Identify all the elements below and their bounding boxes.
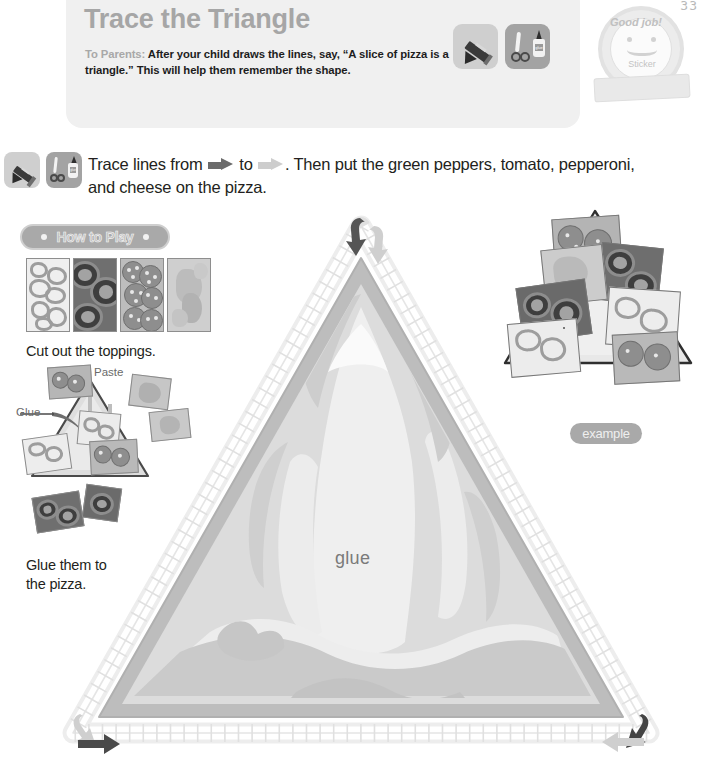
pasted-chip-pepperoni-bottom	[89, 439, 139, 475]
example-chip-peppers-bottomleft	[507, 318, 581, 378]
good-job-ribbon	[593, 74, 690, 103]
pasted-chip-tomato-a	[31, 490, 84, 533]
example-figure: example	[495, 205, 705, 455]
pasted-chip-cheese-right	[149, 408, 192, 442]
sticker-label: Sticker	[611, 59, 673, 69]
crayon-tool-icon	[453, 24, 498, 69]
example-chip-pepperoni-bottomright	[612, 331, 681, 384]
glue-bottle-label: glue	[535, 44, 543, 51]
to-parents-note: To Parents: After your child draws the l…	[85, 46, 455, 79]
instruction-text: Trace lines from to . Then put the green…	[88, 152, 648, 200]
to-parents-label: To Parents:	[85, 48, 145, 60]
glue-bottle-label: glue	[70, 167, 76, 173]
pasted-chip-cheese-top	[128, 374, 172, 411]
dark-arrow-icon	[208, 158, 234, 171]
step-2-caption-line2: the pizza.	[26, 575, 86, 594]
good-job-label: Good job!	[588, 10, 684, 34]
bullet-dot-left	[41, 234, 47, 240]
tomato-card	[73, 258, 117, 332]
cheese-card	[167, 258, 211, 332]
glue-step-diagram: Paste Glue	[16, 368, 196, 508]
worksheet-page: 33 Trace the Triangle To Parents: After …	[0, 0, 712, 775]
pepperoni-card	[120, 258, 164, 332]
example-label: example	[570, 423, 642, 444]
light-arrow-icon	[258, 158, 284, 171]
paste-label: Paste	[94, 366, 123, 378]
page-title: Trace the Triangle	[84, 4, 310, 35]
topping-cards-strip	[26, 258, 211, 332]
apex-start-arrow	[332, 212, 402, 274]
instruction-crayon-icon	[4, 152, 40, 188]
scissors-ring-right	[57, 174, 65, 182]
green-peppers-card	[26, 258, 70, 332]
instruction-scissors-glue-icon: glue	[46, 152, 82, 188]
glue-label: Glue	[16, 406, 40, 418]
step-2-caption-line1: Glue them to	[26, 556, 107, 575]
header-panel: Trace the Triangle To Parents: After you…	[66, 0, 580, 128]
glue-instruction-word: glue	[335, 548, 370, 569]
bottom-left-arrow	[62, 704, 136, 762]
how-to-play-label: How to Play	[56, 229, 133, 245]
instruction-row: glue Trace lines from to . Then put the …	[4, 152, 704, 200]
bottom-right-arrow	[584, 702, 660, 762]
instruction-part-1: Trace lines from	[88, 155, 207, 173]
smiley-mouth	[627, 41, 657, 56]
how-to-play-badge: How to Play	[20, 224, 170, 250]
bullet-dot-right	[143, 234, 149, 240]
example-chip-cheese-bottom	[563, 327, 565, 329]
scissors-blade-shape	[515, 32, 521, 52]
scissors-blade-shape	[53, 157, 58, 173]
pasted-chip-tomato-b	[82, 484, 122, 523]
scissors-ring-right	[520, 52, 530, 62]
step-1-caption: Cut out the toppings.	[26, 342, 156, 361]
header-tool-icons: glue	[453, 24, 550, 69]
pasted-chip-peppers-left	[22, 433, 73, 475]
pasted-chip-pepperoni	[47, 365, 93, 400]
instruction-part-2: to	[235, 155, 257, 173]
scissors-glue-tool-icon: glue	[505, 24, 550, 69]
sticker-badge: Sticker Good job!	[588, 10, 700, 114]
